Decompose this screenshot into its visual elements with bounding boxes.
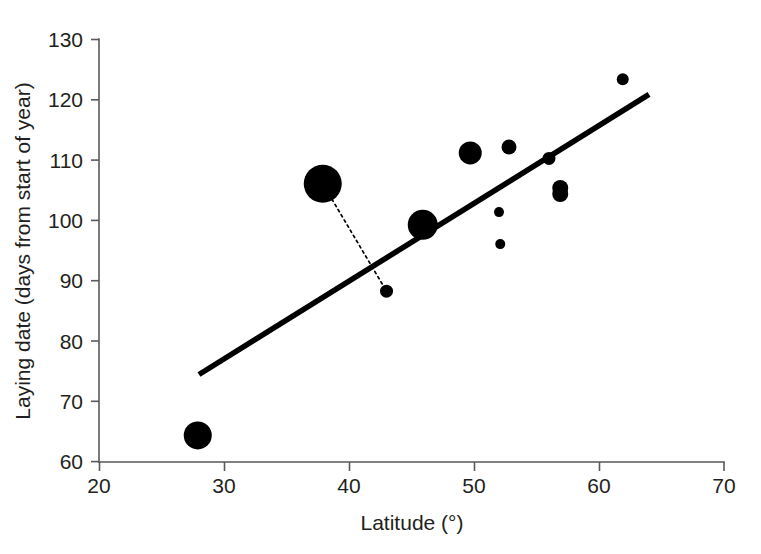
x-tick-label-20: 20 bbox=[87, 474, 110, 497]
y-tick-label-130: 130 bbox=[48, 28, 83, 51]
scatter-chart: 130 120 110 100 90 80 70 60 Laying date … bbox=[0, 0, 761, 554]
x-axis-group: 20 30 40 50 60 70 Latitude (°) bbox=[87, 462, 735, 534]
data-point bbox=[380, 285, 393, 298]
data-point bbox=[502, 139, 517, 154]
data-point bbox=[617, 73, 629, 85]
y-axis-tick-labels: 130 120 110 100 90 80 70 60 bbox=[48, 28, 83, 473]
x-axis-ticks bbox=[100, 462, 725, 471]
data-point bbox=[459, 141, 482, 164]
y-tick-label-80: 80 bbox=[60, 330, 83, 353]
data-point bbox=[543, 152, 556, 165]
y-tick-label-120: 120 bbox=[48, 88, 83, 111]
y-axis-title: Laying date (days from start of year) bbox=[11, 82, 34, 419]
data-point bbox=[304, 165, 342, 203]
y-axis-ticks bbox=[91, 40, 99, 462]
data-points-group bbox=[184, 73, 629, 449]
x-axis-title: Latitude (°) bbox=[361, 511, 464, 534]
data-point bbox=[552, 186, 568, 202]
y-axis-group: 130 120 110 100 90 80 70 60 Laying date … bbox=[11, 28, 99, 473]
y-tick-label-70: 70 bbox=[60, 390, 83, 413]
x-tick-label-50: 50 bbox=[462, 474, 485, 497]
data-point bbox=[494, 207, 504, 217]
y-tick-label-100: 100 bbox=[48, 209, 83, 232]
data-point bbox=[408, 210, 438, 240]
x-tick-label-40: 40 bbox=[337, 474, 360, 497]
y-tick-label-110: 110 bbox=[50, 149, 83, 172]
data-point bbox=[495, 239, 505, 249]
plot-area bbox=[184, 73, 649, 449]
y-tick-label-60: 60 bbox=[60, 450, 83, 473]
y-tick-label-90: 90 bbox=[60, 269, 83, 292]
data-point bbox=[184, 421, 212, 449]
x-axis-tick-labels: 20 30 40 50 60 70 bbox=[87, 474, 735, 497]
x-tick-label-30: 30 bbox=[212, 474, 235, 497]
x-tick-label-70: 70 bbox=[712, 474, 735, 497]
x-tick-label-60: 60 bbox=[587, 474, 610, 497]
